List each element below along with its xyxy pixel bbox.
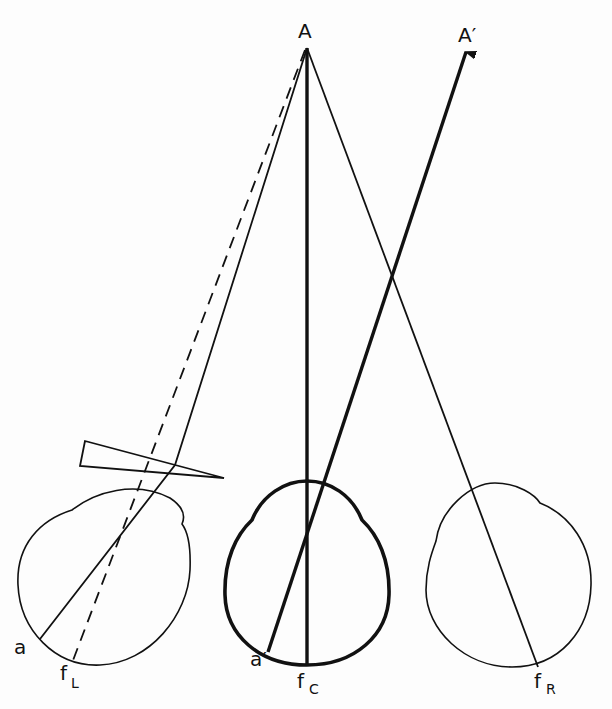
label-fL-sub: L bbox=[71, 675, 79, 691]
right-eye-outline bbox=[426, 483, 591, 667]
label-fR: f bbox=[534, 669, 542, 693]
prism-wedge bbox=[80, 441, 224, 478]
ray-A-to-a bbox=[40, 48, 307, 639]
diagram-svg: A A′ a f L a′ f C f R bbox=[0, 0, 612, 709]
label-a: a bbox=[14, 635, 26, 659]
label-fR-sub: R bbox=[546, 681, 556, 697]
diagram-canvas: A A′ a f L a′ f C f R bbox=[0, 0, 612, 709]
ray-A-to-fL-dashed bbox=[72, 50, 305, 663]
label-A: A bbox=[298, 19, 312, 43]
label-a-prime: a′ bbox=[250, 647, 267, 671]
label-fC-sub: C bbox=[309, 681, 319, 697]
ray-A-to-fR bbox=[307, 48, 538, 667]
ray-a-prime-to-A-prime-arrow bbox=[268, 52, 466, 652]
label-fC: f bbox=[297, 669, 305, 693]
label-A-prime: A′ bbox=[458, 23, 477, 47]
label-fL: f bbox=[60, 661, 68, 685]
